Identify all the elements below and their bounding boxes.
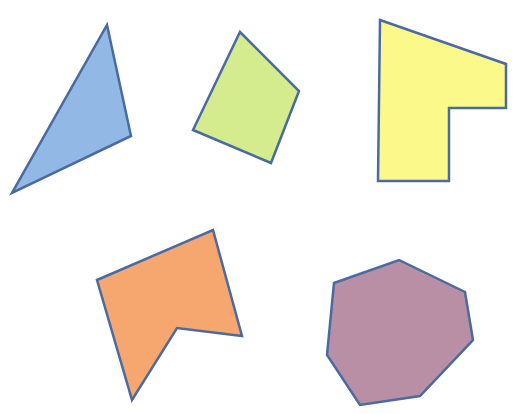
- orange-pentagon-concave: [97, 230, 242, 400]
- shapes-canvas: [0, 0, 514, 414]
- blue-triangle: [12, 25, 131, 193]
- green-quadrilateral: [193, 32, 299, 163]
- yellow-hexagon-l-shape: [378, 20, 506, 181]
- shapes-svg: [0, 0, 514, 414]
- purple-heptagon: [327, 260, 473, 405]
